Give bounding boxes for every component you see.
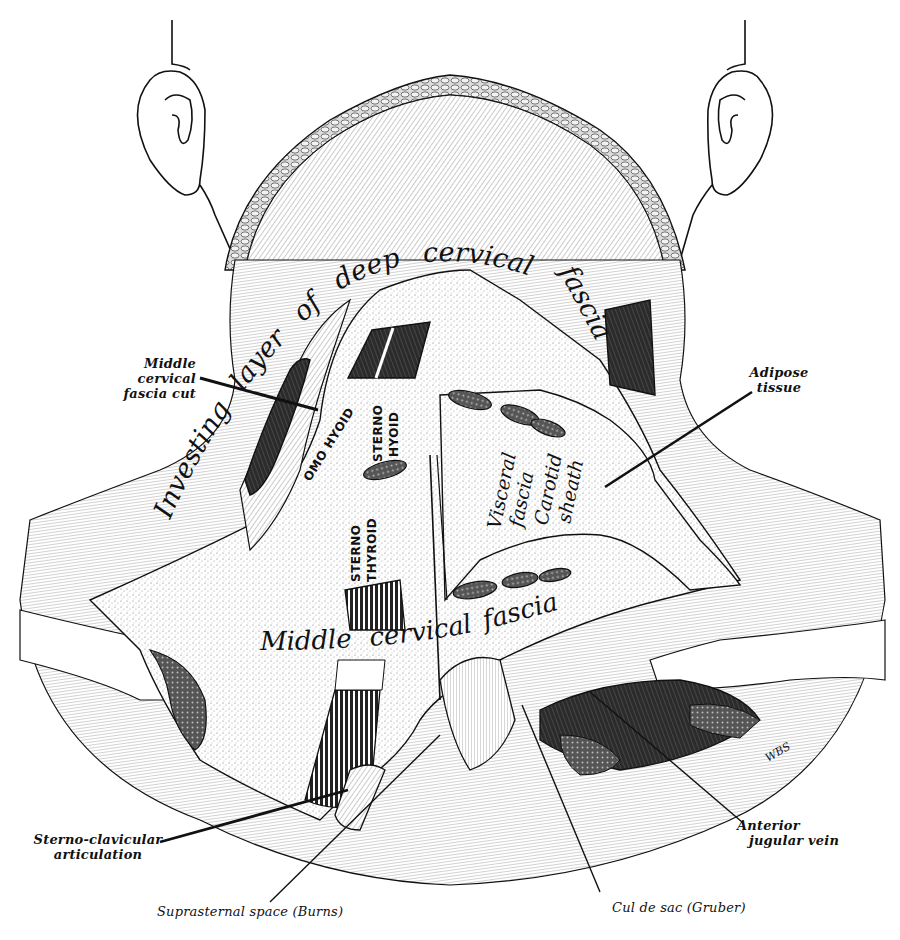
label-sterno-hyoid-1: STERNO bbox=[371, 404, 385, 462]
label-sterno-hyoid-2: HYOID bbox=[387, 412, 401, 457]
label-sterno-thyroid-1: STERNO bbox=[349, 524, 363, 582]
callout-line-1: Adipose bbox=[744, 365, 814, 380]
left-ear bbox=[138, 20, 236, 260]
callout-cul-de-sac: Cul de sac (Gruber) bbox=[612, 900, 782, 915]
callout-line-2: fascia cut bbox=[84, 386, 196, 401]
callout-suprasternal-space: Suprasternal space (Burns) bbox=[157, 904, 397, 919]
figure-canvas: Investing layer of deep cervical fascia … bbox=[0, 0, 900, 940]
callout-line-1: Anterior bbox=[737, 818, 857, 833]
callout-middle-cervical-fascia-cut: Middle cervical fascia cut bbox=[84, 356, 196, 401]
callout-line-1: Middle cervical bbox=[84, 356, 196, 386]
right-ear bbox=[680, 20, 773, 260]
sternomastoid-cut bbox=[605, 300, 655, 395]
anatomy-figure: Investing layer of deep cervical fascia … bbox=[0, 0, 900, 940]
callout-anterior-jugular-vein: Anterior jugular vein bbox=[737, 818, 857, 848]
callout-line-2: articulation bbox=[28, 847, 168, 862]
callout-line-1: Sterno-clavicular bbox=[28, 832, 168, 847]
strap-white-band bbox=[335, 660, 385, 690]
callout-adipose-tissue: Adipose tissue bbox=[744, 365, 814, 395]
callout-line-2: tissue bbox=[744, 380, 814, 395]
callout-line-2: jugular vein bbox=[737, 833, 857, 848]
callout-sterno-clavicular-articulation: Sterno-clavicular articulation bbox=[28, 832, 168, 862]
label-sterno-thyroid-2: THYROID bbox=[365, 518, 379, 582]
